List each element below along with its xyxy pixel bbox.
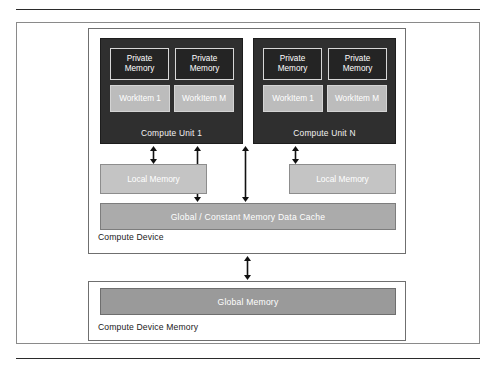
- work-item-cu1-last: WorkItem M: [174, 85, 234, 112]
- private-memory-cu1-a: Private Memory: [110, 48, 169, 80]
- compute-unit-n: Private Memory Private Memory WorkItem 1…: [253, 38, 396, 144]
- private-memory-label-line1: Private: [345, 54, 370, 65]
- work-item-cu1-first: WorkItem 1: [110, 85, 170, 112]
- local-memory-2: Local Memory: [289, 164, 396, 194]
- compute-device-caption: Compute Device: [98, 232, 164, 242]
- private-memory-label-line1: Private: [192, 54, 217, 65]
- private-memory-cun-b: Private Memory: [328, 48, 387, 80]
- page-rule-bottom: [16, 358, 480, 359]
- private-memory-label-line1: Private: [127, 54, 152, 65]
- work-item-cun-last: WorkItem M: [327, 85, 387, 112]
- private-memory-label-line2: Memory: [343, 64, 373, 75]
- page-rule-top: [16, 9, 480, 10]
- work-item-cun-first: WorkItem 1: [263, 85, 323, 112]
- local-memory-1: Local Memory: [100, 164, 207, 194]
- compute-device-memory-container: Global Memory Compute Device Memory: [88, 281, 406, 341]
- arrow-cun-to-local-memory: [289, 146, 302, 164]
- global-constant-memory-data-cache: Global / Constant Memory Data Cache: [100, 203, 396, 230]
- private-memory-label-line2: Memory: [190, 64, 220, 75]
- compute-unit-1-label: Compute Unit 1: [101, 128, 242, 138]
- arrow-cun-to-global-cache: [239, 146, 252, 202]
- compute-device-memory-caption: Compute Device Memory: [98, 322, 198, 332]
- figure-frame: Private Memory Private Memory WorkItem 1…: [16, 22, 480, 344]
- arrow-compute-device-to-device-memory: [241, 256, 254, 280]
- arrow-cu1-to-local-memory: [147, 146, 160, 164]
- private-memory-label-line2: Memory: [278, 64, 308, 75]
- compute-unit-n-label: Compute Unit N: [254, 128, 395, 138]
- global-memory: Global Memory: [100, 288, 396, 315]
- compute-unit-1: Private Memory Private Memory WorkItem 1…: [100, 38, 243, 144]
- private-memory-cun-a: Private Memory: [263, 48, 322, 80]
- compute-device-container: Private Memory Private Memory WorkItem 1…: [88, 28, 406, 254]
- private-memory-label-line1: Private: [280, 54, 305, 65]
- private-memory-label-line2: Memory: [125, 64, 155, 75]
- private-memory-cu1-b: Private Memory: [175, 48, 234, 80]
